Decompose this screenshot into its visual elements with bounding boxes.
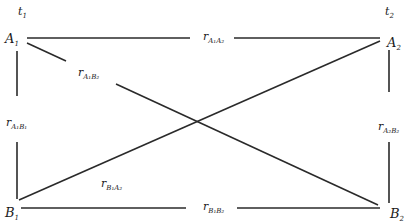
corr-label-a1b1: rA₁B₁ — [6, 117, 27, 131]
time-label-t1: t1 — [18, 6, 27, 20]
corr-b1a2-sub: B₁A₂ — [106, 184, 122, 192]
time-label-t1-sub: 1 — [22, 12, 26, 20]
corr-label-a1a2: rA₁A₂ — [203, 31, 224, 45]
node-b2: B2 — [390, 207, 404, 222]
node-b1-base: B — [5, 205, 15, 220]
node-a2-base: A — [387, 35, 396, 50]
corr-label-a2b2: rA₂B₂ — [378, 121, 399, 135]
corr-a1b1-sub: A₁B₁ — [11, 123, 27, 131]
corr-a1b2-sub: A₁B₂ — [83, 73, 99, 81]
time-label-t2-sub: 2 — [389, 12, 393, 20]
edge-a1-b2-upper — [27, 43, 66, 61]
corr-label-b1b2: rB₁B₂ — [203, 201, 224, 215]
node-b2-sub: 2 — [400, 215, 404, 222]
node-b2-base: B — [390, 206, 400, 221]
corr-label-b1a2: rB₁A₂ — [101, 178, 122, 192]
corr-b1b2-sub: B₁B₂ — [208, 207, 224, 215]
node-b1-sub: 1 — [15, 214, 19, 222]
corr-label-a1b2: rA₁B₂ — [78, 67, 99, 81]
node-b1: B1 — [5, 206, 19, 222]
edge-b1-a2 — [19, 41, 380, 200]
node-a1-sub: 1 — [14, 40, 18, 48]
node-a2: A2 — [387, 36, 401, 52]
edge-a1-b2-lower — [116, 84, 378, 205]
node-a1: A1 — [5, 32, 19, 48]
corr-a2b2-sub: A₂B₂ — [383, 127, 399, 135]
corr-a1a2-sub: A₁A₂ — [208, 37, 224, 45]
node-a1-base: A — [5, 31, 14, 46]
node-a2-sub: 2 — [396, 44, 400, 52]
time-label-t2: t2 — [385, 6, 394, 20]
